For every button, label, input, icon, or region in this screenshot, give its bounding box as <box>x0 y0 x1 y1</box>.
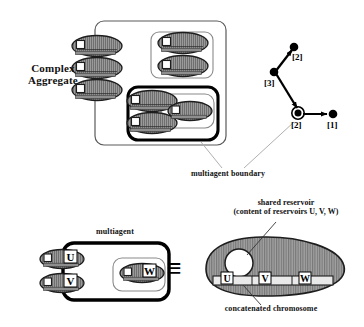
graph-node-label-2-top: [2] <box>292 52 303 62</box>
multiagent-group: U V W <box>40 243 169 300</box>
equivalence-symbol: ≡ <box>167 256 182 282</box>
aggregate-graph <box>270 43 338 120</box>
agent-label-w: W <box>143 264 156 277</box>
svg-text:W: W <box>144 265 155 277</box>
agent-label-u: U <box>64 250 77 263</box>
agent-cell <box>158 56 208 77</box>
complex-aggregate-label: Complex Aggregate <box>12 62 94 87</box>
graph-node-2-mid <box>295 110 302 117</box>
svg-text:W: W <box>300 273 310 284</box>
graph-node-1 <box>329 110 338 119</box>
figure-canvas: U V W U V W <box>0 0 364 327</box>
agent-cell <box>127 113 177 134</box>
svg-text:V: V <box>67 275 75 287</box>
agent-cell <box>72 36 122 57</box>
graph-node-label-2-mid: [2] <box>291 120 302 130</box>
merged-agent-group: U V W <box>206 222 344 305</box>
agent-cell <box>158 33 208 54</box>
svg-text:U: U <box>223 273 230 284</box>
multiagent-boundary-label: multiagent boundary <box>158 170 298 179</box>
agent-label-v: V <box>64 274 77 287</box>
chromosome-gene-u: U <box>221 272 233 284</box>
leader-line-boundary-a <box>201 142 222 168</box>
graph-node-label-1: [1] <box>327 120 338 130</box>
complex-aggregate-group <box>72 21 226 145</box>
leader-line-boundary-b <box>244 122 294 168</box>
graph-node-label-3: [3] <box>264 78 275 88</box>
agent-cell-w <box>120 264 164 283</box>
svg-text:V: V <box>261 273 269 284</box>
chromosome-gene-v: V <box>259 272 271 284</box>
graph-node-2-top <box>290 43 299 52</box>
chromosome-gene-w: W <box>299 272 311 284</box>
svg-text:U: U <box>67 251 75 263</box>
diagram-svg: U V W U V W <box>0 0 364 327</box>
shared-reservoir-label: shared reservoir (content of reservoirs … <box>208 199 364 217</box>
graph-node-3 <box>270 68 279 77</box>
concatenated-chromosome-label: concatenated chromosome <box>196 305 346 314</box>
complex-aggregate-label-line1: Complex <box>12 62 94 74</box>
shared-reservoir-label-line2: (content of reservoirs U, V, W) <box>208 208 364 217</box>
multiagent-label: multiagent <box>60 228 170 237</box>
agent-cell <box>168 102 212 121</box>
complex-aggregate-label-line2: Aggregate <box>12 74 94 86</box>
